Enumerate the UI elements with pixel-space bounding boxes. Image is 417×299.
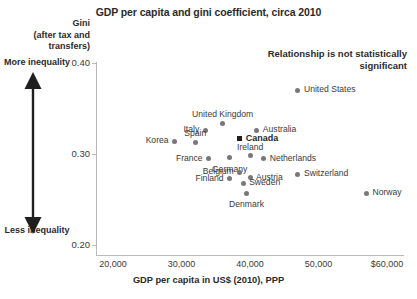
x-tick-label: 30,000 (150, 259, 214, 269)
scatter-chart: GDP per capita and gini coefficient, cir… (0, 0, 417, 299)
data-point-label: Sweden (249, 178, 280, 187)
data-point-marker[interactable] (295, 88, 300, 93)
y-tick-label: 0.20 (50, 239, 90, 250)
x-tick-label: 50,000 (287, 259, 351, 269)
x-axis-title: GDP per capita in US$ (2010), PPP (0, 275, 417, 285)
data-point-label: Denmark (229, 200, 264, 209)
data-point-marker[interactable] (227, 176, 232, 181)
y-tick-label: 0.40 (50, 57, 90, 68)
data-point-label: Spain (184, 129, 206, 138)
y-axis-title: Gini (after tax and transfers) (6, 18, 90, 53)
y-tick-mark (92, 154, 96, 155)
y-tick-mark (92, 245, 96, 246)
y-tick-label: 0.30 (50, 148, 90, 159)
data-point-marker[interactable] (364, 191, 369, 196)
data-point-marker[interactable] (227, 155, 232, 160)
x-axis-line (96, 255, 404, 256)
data-point-marker[interactable] (237, 170, 242, 175)
data-point-label: Norway (372, 188, 401, 197)
data-point-marker[interactable] (172, 139, 177, 144)
data-point-marker[interactable] (206, 156, 211, 161)
chart-title: GDP per capita and gini coefficient, cir… (0, 6, 417, 18)
data-point-marker[interactable] (295, 172, 300, 177)
data-point-marker[interactable] (241, 181, 246, 186)
data-point-label: United Kingdom (192, 110, 253, 119)
data-point-marker[interactable] (261, 156, 266, 161)
x-tick-label: $60,000 (355, 259, 417, 269)
y-axis-line (96, 62, 97, 255)
y-axis-title-line2: (after tax and (33, 30, 90, 40)
inequality-double-arrow-icon (14, 72, 52, 234)
data-point-label: Finland (195, 174, 223, 183)
data-point-label: France (176, 154, 203, 163)
x-tick-label: 40,000 (218, 259, 282, 269)
data-point-label: Ireland (237, 143, 263, 152)
data-point-label: United States (304, 85, 356, 94)
x-tick-label: 20,000 (81, 259, 145, 269)
y-axis-title-line3: transfers) (48, 41, 90, 51)
data-point-label: Netherlands (270, 154, 316, 163)
y-axis-title-line1: Gini (73, 18, 91, 28)
data-point-marker[interactable] (244, 191, 249, 196)
data-point-marker[interactable] (220, 121, 225, 126)
data-point-marker[interactable] (237, 136, 242, 141)
data-point-marker[interactable] (193, 140, 198, 145)
y-tick-mark (92, 63, 96, 64)
chart-annotation: Relationship is not statistically signif… (227, 48, 407, 71)
data-point-label: Korea (146, 136, 169, 145)
data-point-label: Switzerland (304, 169, 348, 178)
data-point-marker[interactable] (248, 153, 253, 158)
